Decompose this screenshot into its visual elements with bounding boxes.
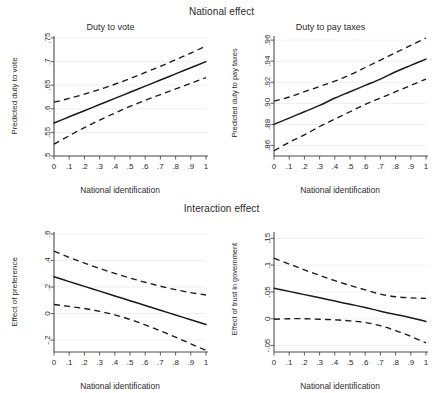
svg-text:.2: .2 (301, 162, 308, 171)
svg-text:.86: .86 (263, 139, 272, 151)
svg-text:.05: .05 (263, 286, 272, 298)
svg-text:.7: .7 (157, 162, 164, 171)
plot-area-effect-of-trust-in-government: -.050.05.1.150.1.2.3.4.5.6.7.8.91 (228, 228, 433, 380)
svg-text:.5: .5 (43, 152, 52, 159)
svg-text:.90: .90 (263, 97, 272, 109)
svg-text:-.2: -.2 (43, 335, 52, 345)
svg-text:.4: .4 (111, 358, 118, 367)
svg-text:.2: .2 (81, 358, 88, 367)
svg-text:.6: .6 (43, 230, 52, 237)
svg-text:0: 0 (52, 162, 57, 171)
svg-text:.15: .15 (263, 232, 272, 244)
x-axis-title-effect-of-trust-in-government: National identification (250, 381, 430, 391)
svg-text:.94: .94 (263, 55, 272, 67)
svg-text:-.05: -.05 (263, 338, 272, 352)
svg-text:0: 0 (52, 358, 57, 367)
svg-text:1: 1 (424, 162, 429, 171)
svg-text:.4: .4 (43, 257, 52, 264)
svg-text:.6: .6 (142, 358, 149, 367)
svg-text:0: 0 (272, 358, 277, 367)
plot-area-duty-to-vote: .5.55.6.65.7.750.1.2.3.4.5.6.7.8.91 (8, 32, 213, 184)
panel-title-duty-to-vote: Duty to vote (8, 22, 213, 32)
supertitle-interaction-effect: Interaction effect (0, 203, 443, 214)
marginal-effects-figure: National effect Interaction effect Duty … (0, 0, 443, 393)
svg-text:.1: .1 (263, 261, 272, 268)
svg-text:.3: .3 (316, 358, 323, 367)
svg-text:.8: .8 (392, 358, 399, 367)
svg-text:.8: .8 (392, 162, 399, 171)
svg-text:.4: .4 (111, 162, 118, 171)
svg-text:.6: .6 (362, 358, 369, 367)
svg-text:.5: .5 (347, 358, 354, 367)
svg-text:.1: .1 (286, 358, 293, 367)
svg-text:.7: .7 (377, 358, 384, 367)
svg-text:0: 0 (263, 316, 272, 321)
svg-text:0: 0 (272, 162, 277, 171)
svg-text:.7: .7 (157, 358, 164, 367)
svg-text:.9: .9 (407, 358, 414, 367)
panel-effect-of-preference: Effect of preference -.20.2.4.60.1.2.3.4… (8, 218, 213, 393)
svg-text:.8: .8 (172, 358, 179, 367)
svg-text:.92: .92 (263, 76, 272, 88)
svg-text:.88: .88 (263, 118, 272, 130)
svg-text:.3: .3 (96, 162, 103, 171)
svg-text:.3: .3 (316, 162, 323, 171)
svg-text:.7: .7 (43, 58, 52, 65)
x-axis-title-duty-to-pay-taxes: National identification (250, 185, 430, 195)
svg-text:.9: .9 (407, 162, 414, 171)
svg-text:.9: .9 (187, 162, 194, 171)
panel-title-duty-to-pay-taxes: Duty to pay taxes (228, 22, 433, 32)
svg-text:.4: .4 (331, 162, 338, 171)
svg-text:.6: .6 (43, 105, 52, 112)
svg-text:.2: .2 (81, 162, 88, 171)
svg-text:1: 1 (204, 162, 209, 171)
svg-text:.2: .2 (301, 358, 308, 367)
svg-text:.75: .75 (43, 32, 52, 44)
svg-text:.65: .65 (43, 79, 52, 91)
supertitle-national-effect: National effect (0, 6, 443, 17)
svg-text:.1: .1 (66, 162, 73, 171)
svg-text:.96: .96 (263, 34, 272, 46)
svg-text:.1: .1 (286, 162, 293, 171)
svg-text:1: 1 (204, 358, 209, 367)
svg-text:.55: .55 (43, 126, 52, 138)
svg-text:.6: .6 (362, 162, 369, 171)
svg-text:.5: .5 (347, 162, 354, 171)
svg-text:.8: .8 (172, 162, 179, 171)
svg-text:.2: .2 (43, 283, 52, 290)
svg-text:.3: .3 (96, 358, 103, 367)
plot-area-effect-of-preference: -.20.2.4.60.1.2.3.4.5.6.7.8.91 (8, 228, 213, 380)
svg-text:.5: .5 (127, 358, 134, 367)
svg-text:.4: .4 (331, 358, 338, 367)
svg-text:.1: .1 (66, 358, 73, 367)
panel-duty-to-pay-taxes: Duty to pay taxes Predicted duty to pay … (228, 22, 433, 200)
svg-text:0: 0 (43, 311, 52, 316)
x-axis-title-effect-of-preference: National identification (30, 381, 210, 391)
plot-area-duty-to-pay-taxes: .86.88.90.92.94.960.1.2.3.4.5.6.7.8.91 (228, 32, 433, 184)
panel-effect-of-trust-in-government: Effect of trust in government -.050.05.1… (228, 218, 433, 393)
svg-text:1: 1 (424, 358, 429, 367)
panel-duty-to-vote: Duty to vote Predicted duty to vote .5.5… (8, 22, 213, 200)
svg-text:.7: .7 (377, 162, 384, 171)
svg-text:.6: .6 (142, 162, 149, 171)
svg-text:.5: .5 (127, 162, 134, 171)
x-axis-title-duty-to-vote: National identification (30, 185, 210, 195)
svg-text:.9: .9 (187, 358, 194, 367)
